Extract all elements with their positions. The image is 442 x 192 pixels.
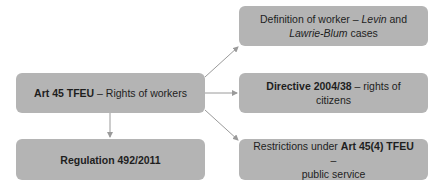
arrow-root-to-restrictions [205,110,238,140]
node-root: Art 45 TFEU – Rights of workers [16,73,205,113]
root-rest: – Rights of workers [94,87,187,99]
definition-cases: cases [348,27,378,39]
definition-pre: Definition of worker – [260,13,362,25]
arrow-root-to-definition [205,47,238,77]
restrictions-bold: Art 45(4) TFEU [341,140,414,152]
node-directive: Directive 2004/38 – rights of citizens [239,73,428,113]
node-restrictions: Restrictions under Art 45(4) TFEU – publ… [239,139,428,180]
definition-lawrie-blum: Lawrie-Blum [289,27,347,39]
restrictions-post: – [331,154,337,166]
definition-levin: Levin [362,13,387,25]
node-regulation: Regulation 492/2011 [16,139,205,180]
node-definition: Definition of worker – Levin and Lawrie-… [239,6,428,46]
definition-and: and [387,13,407,25]
restrictions-line2: public service [302,168,366,180]
regulation-label: Regulation 492/2011 [60,153,160,167]
restrictions-pre: Restrictions under [253,140,341,152]
directive-bold: Directive 2004/38 [266,80,351,92]
root-bold: Art 45 TFEU [34,87,94,99]
